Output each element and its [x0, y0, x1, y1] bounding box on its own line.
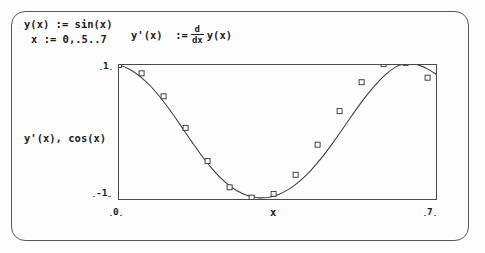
- cosine-trace: [119, 65, 436, 198]
- y-axis-min-tick[interactable]: -1: [96, 187, 107, 198]
- function-definition[interactable]: y(x) := sin(x): [24, 18, 113, 30]
- x-axis-min-tick[interactable]: 0: [113, 206, 119, 217]
- data-marker: [293, 172, 298, 177]
- fraction-numerator: d: [194, 25, 201, 35]
- data-marker: [315, 142, 320, 147]
- data-marker: [227, 185, 232, 190]
- plot-y-axis-label[interactable]: y'(x), cos(x): [24, 132, 106, 144]
- y-axis-max-tick[interactable]: 1: [103, 60, 109, 71]
- data-marker: [119, 65, 122, 68]
- derivative-argument: y(x): [207, 29, 232, 41]
- fraction-denominator: dx: [191, 35, 204, 45]
- plot-marker-group: [119, 65, 430, 199]
- data-marker: [249, 195, 254, 199]
- plot-trace-group: [119, 65, 436, 198]
- data-marker: [425, 75, 430, 80]
- data-marker: [161, 94, 166, 99]
- xy-plot[interactable]: [118, 64, 437, 200]
- data-marker: [359, 80, 364, 85]
- derivative-lhs: y'(x) :=: [131, 29, 188, 41]
- range-variable-definition[interactable]: x := 0,.5..7: [31, 33, 107, 45]
- mathcad-worksheet-screenshot: y(x) := sin(x) x := 0,.5..7 y'(x) := d d…: [0, 0, 485, 253]
- data-marker: [337, 109, 342, 114]
- derivative-operator-fraction: d dx: [191, 25, 204, 45]
- data-marker: [183, 125, 188, 130]
- plot-canvas: [119, 65, 436, 199]
- data-marker: [271, 191, 276, 196]
- data-marker: [139, 71, 144, 76]
- derivative-definition[interactable]: y'(x) := d dx y(x): [131, 25, 232, 45]
- plot-x-axis-label[interactable]: x: [270, 206, 276, 218]
- data-marker: [205, 159, 210, 164]
- data-marker: [381, 65, 386, 67]
- x-axis-max-tick[interactable]: 7: [427, 206, 433, 217]
